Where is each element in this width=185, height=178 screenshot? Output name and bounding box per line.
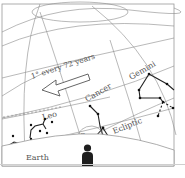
earth-label: Earth <box>26 153 49 162</box>
celestial-sphere-diagram: 1° every 72 years Gemini Cancer Leo <box>0 0 185 178</box>
bottom-divider <box>0 164 185 165</box>
